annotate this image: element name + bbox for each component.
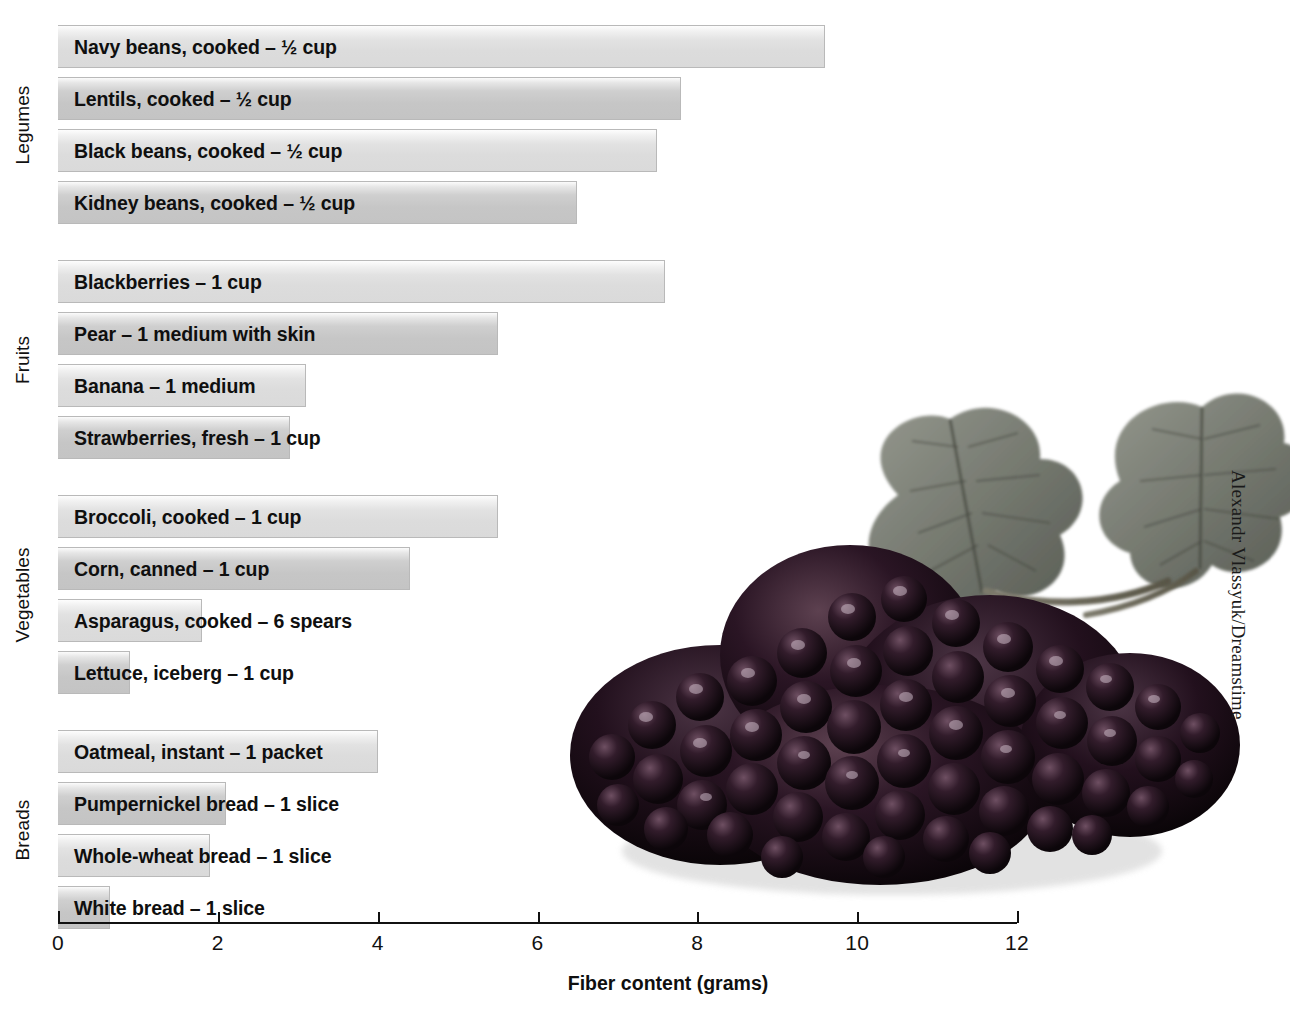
bar: Kidney beans, cooked – ½ cup <box>58 181 577 224</box>
x-axis-tick-label: 2 <box>212 931 224 955</box>
x-axis-tick-label: 0 <box>52 931 64 955</box>
group-label-breads: Breads <box>10 730 34 929</box>
bar: Blackberries – 1 cup <box>58 260 665 303</box>
axis-end-cap <box>1017 911 1019 923</box>
x-axis-title: Fiber content (grams) <box>0 972 1308 995</box>
bar: Lentils, cooked – ½ cup <box>58 77 681 120</box>
bar: Corn, canned – 1 cup <box>58 547 410 590</box>
bar: Asparagus, cooked – 6 spears <box>58 599 202 642</box>
bar: Oatmeal, instant – 1 packet <box>58 730 378 773</box>
bar-label: Blackberries – 1 cup <box>74 270 262 293</box>
bar: Pumpernickel bread – 1 slice <box>58 782 226 825</box>
bar-label: Strawberries, fresh – 1 cup <box>74 426 321 449</box>
group-label-vegetables: Vegetables <box>10 495 34 694</box>
bar-label: Broccoli, cooked – 1 cup <box>74 505 301 528</box>
x-axis-tick-label: 4 <box>372 931 384 955</box>
bar-label: Pumpernickel bread – 1 slice <box>74 792 339 815</box>
x-axis-tick <box>697 912 699 923</box>
bar-label: Lentils, cooked – ½ cup <box>74 87 292 110</box>
bar: Navy beans, cooked – ½ cup <box>58 25 825 68</box>
bar-label: Pear – 1 medium with skin <box>74 322 315 345</box>
group-label-fruits: Fruits <box>10 260 34 459</box>
x-axis-tick-label: 8 <box>691 931 703 955</box>
bar: Banana – 1 medium <box>58 364 306 407</box>
bar-label: Oatmeal, instant – 1 packet <box>74 740 323 763</box>
bar-label: Black beans, cooked – ½ cup <box>74 139 342 162</box>
x-axis-tick <box>538 912 540 923</box>
bar-label: Banana – 1 medium <box>74 374 255 397</box>
axis-start-cap <box>58 911 60 923</box>
x-axis-tick-label: 6 <box>532 931 544 955</box>
bar: Broccoli, cooked – 1 cup <box>58 495 498 538</box>
bar: Black beans, cooked – ½ cup <box>58 129 657 172</box>
blackberries-photo <box>520 385 1290 910</box>
x-axis-title-text: Fiber content (grams) <box>568 972 768 995</box>
bar: Strawberries, fresh – 1 cup <box>58 416 290 459</box>
x-axis-tick <box>378 912 380 923</box>
bar-label: Kidney beans, cooked – ½ cup <box>74 191 355 214</box>
bar-label: Asparagus, cooked – 6 spears <box>74 609 352 632</box>
bar-label: Whole-wheat bread – 1 slice <box>74 844 331 867</box>
fiber-content-chart: Alexandr Vlassyuk/Dreamstime Navy beans,… <box>0 0 1308 1021</box>
bar: Pear – 1 medium with skin <box>58 312 498 355</box>
bar: Lettuce, iceberg – 1 cup <box>58 651 130 694</box>
bar-label: Navy beans, cooked – ½ cup <box>74 35 337 58</box>
x-axis-tick-label: 12 <box>1005 931 1029 955</box>
bar-label: Corn, canned – 1 cup <box>74 557 269 580</box>
x-axis-tick <box>218 912 220 923</box>
bar: Whole-wheat bread – 1 slice <box>58 834 210 877</box>
bar-label: Lettuce, iceberg – 1 cup <box>74 661 294 684</box>
photo-credit: Alexandr Vlassyuk/Dreamstime <box>1227 470 1249 790</box>
bar-label: White bread – 1 slice <box>74 896 265 919</box>
group-label-legumes: Legumes <box>10 25 34 224</box>
x-axis-tick <box>857 912 859 923</box>
x-axis-tick-label: 10 <box>845 931 869 955</box>
